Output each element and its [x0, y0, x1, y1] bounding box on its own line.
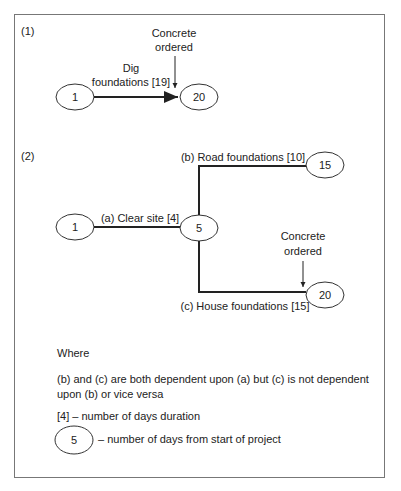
- note-concrete-line2: ordered: [284, 245, 322, 257]
- note-concrete-line1: Concrete: [152, 27, 197, 39]
- node-15-label: 15: [319, 159, 331, 171]
- legend-dependency-line1: (b) and (c) are both dependent upon (a) …: [57, 372, 369, 387]
- activity-line-b: [199, 166, 306, 215]
- node-5-label: 5: [196, 222, 202, 234]
- note-concrete-line1: Concrete: [281, 230, 326, 242]
- legend-node-example-label: 5: [71, 434, 77, 446]
- diagram1-label: (1): [21, 25, 34, 37]
- node-20-label: 20: [193, 91, 205, 103]
- node-20-label: 20: [319, 289, 331, 301]
- legend-duration: [4] – number of days duration: [57, 409, 200, 424]
- activity-a-label: (a) Clear site [4]: [101, 212, 179, 224]
- activity-b-label: (b) Road foundations [10]: [181, 151, 305, 163]
- note-concrete-line2: ordered: [155, 41, 193, 53]
- node-1-label: 1: [72, 221, 78, 233]
- legend-dependency-line2: upon (b) or vice versa: [57, 387, 163, 402]
- legend-where: Where: [57, 346, 89, 361]
- diagram2-label: (2): [21, 150, 34, 162]
- legend-node-desc: – number of days from start of project: [98, 432, 281, 447]
- activity-dig-line2: foundations [19]: [92, 76, 170, 88]
- activity-c-label: (c) House foundations [15]: [180, 300, 309, 312]
- node-1-label: 1: [72, 91, 78, 103]
- activity-dig-line1: Dig: [123, 62, 140, 74]
